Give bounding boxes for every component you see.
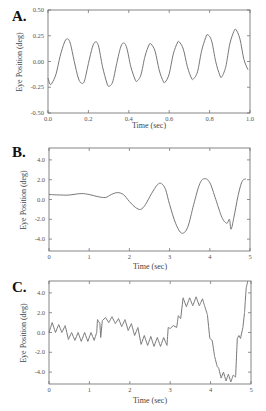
x-tick-label: 3 [169, 386, 172, 393]
x-ticks: 012345 [47, 148, 251, 260]
y-tick-label: 0.25 [33, 32, 44, 39]
panel-b: B. 4.02.00.0-2.0-4.0 012345 Time (sec) E… [12, 144, 252, 271]
x-tick-label: 1 [88, 253, 91, 260]
plot-frame [49, 148, 250, 251]
x-axis-label: Time (sec) [133, 262, 167, 271]
y-tick-label: -4.0 [35, 368, 45, 375]
y-axis-label: Eye Position (deg) [19, 303, 28, 363]
x-tick-label: 1.0 [246, 115, 254, 122]
x-tick-label: 2 [128, 253, 131, 260]
y-tick-label: -0.50 [30, 109, 44, 116]
x-tick-label: 4 [208, 253, 212, 260]
x-tick-label: 2 [128, 386, 131, 393]
panel-label: C. [12, 279, 27, 295]
figure: A. 0.500.250.00-0.25-0.50 0.00.20.40.60.… [0, 0, 266, 411]
y-tick-label: 0.50 [33, 6, 44, 13]
y-tick-label: 2.0 [37, 309, 45, 316]
x-tick-label: 3 [168, 253, 171, 260]
y-axis-label: Eye Position (deg) [15, 32, 24, 92]
y-ticks: 0.500.250.00-0.25-0.50 [30, 6, 250, 116]
y-tick-label: 0.0 [37, 329, 45, 336]
x-tick-label: 0.2 [84, 115, 92, 122]
data-trace [49, 281, 248, 382]
x-tick-label: 0.8 [206, 115, 214, 122]
y-tick-label: -0.25 [30, 83, 44, 90]
y-tick-label: -4.0 [35, 235, 45, 242]
x-axis-label: Time (sec) [133, 396, 167, 405]
panel-label: B. [12, 144, 26, 160]
plot-frame [49, 281, 251, 384]
y-ticks: 4.02.00.0-2.0-4.0 [35, 156, 250, 242]
x-tick-label: 0.0 [44, 115, 52, 122]
y-tick-label: 4.0 [37, 289, 45, 296]
y-axis-label: Eye Position (deg) [19, 170, 28, 230]
x-tick-label: 4 [209, 386, 213, 393]
data-trace [48, 29, 248, 86]
panel-c: C. 4.02.00.0-2.0-4.0 012345 Time (sec) E… [12, 279, 253, 405]
x-tick-label: 0.6 [165, 115, 174, 122]
x-tick-label: 0 [47, 386, 50, 393]
x-tick-label: 5 [248, 253, 251, 260]
panel-label: A. [12, 8, 27, 24]
y-tick-label: -2.0 [35, 348, 45, 355]
y-tick-label: 4.0 [37, 156, 45, 163]
plot-frame [48, 10, 250, 113]
data-trace [49, 179, 246, 234]
x-tick-label: 0 [47, 253, 50, 260]
x-tick-label: 5 [249, 386, 252, 393]
x-axis-label: Time (sec) [132, 121, 166, 130]
y-tick-label: 2.0 [37, 176, 45, 183]
y-tick-label: 0.00 [33, 58, 44, 65]
panel-a: A. 0.500.250.00-0.25-0.50 0.00.20.40.60.… [12, 6, 254, 130]
x-tick-label: 1 [88, 386, 91, 393]
y-tick-label: -2.0 [35, 215, 45, 222]
y-tick-label: 0.0 [37, 196, 45, 203]
